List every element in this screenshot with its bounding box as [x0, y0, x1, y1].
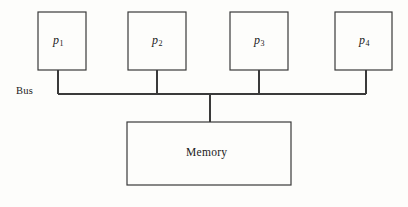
processor-label-p2-text: p: [152, 33, 158, 47]
bus-label: Bus: [16, 85, 33, 96]
processor-label-p3-text: p: [254, 33, 260, 47]
processor-label-p1: p1: [53, 33, 63, 48]
processor-label-p4-text: p: [359, 33, 365, 47]
processor-label-p1-subscript: 1: [60, 39, 64, 48]
processor-label-p3-subscript: 3: [261, 39, 265, 48]
processor-label-p2-subscript: 2: [159, 39, 163, 48]
bus-connectors: [58, 70, 366, 94]
processor-label-p4: p4: [359, 33, 369, 48]
processor-label-p1-text: p: [53, 33, 59, 47]
processor-label-p2: p2: [152, 33, 162, 48]
processor-label-p4-subscript: 4: [366, 39, 370, 48]
diagram-canvas: p1 p2 p3 p4 Bus Memory: [0, 0, 408, 207]
processor-boxes: [38, 12, 392, 70]
memory-label: Memory: [186, 146, 227, 158]
diagram-svg: [0, 0, 408, 207]
processor-label-p3: p3: [254, 33, 264, 48]
